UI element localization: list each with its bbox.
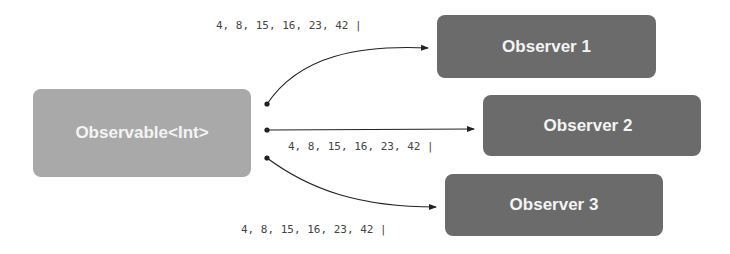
observer-2-box: Observer 2 xyxy=(483,95,701,156)
arrow-to-observer-3 xyxy=(264,155,436,207)
observer-2-label: Observer 2 xyxy=(544,116,633,136)
observer-1-box: Observer 1 xyxy=(437,15,656,78)
stream-label-3: 4, 8, 15, 16, 23, 42 | xyxy=(241,223,387,236)
diagram-canvas: Observable<Int> Observer 1 Observer 2 Ob… xyxy=(0,0,730,254)
observable-box: Observable<Int> xyxy=(33,89,251,177)
observer-3-label: Observer 3 xyxy=(510,195,599,215)
stream-label-2: 4, 8, 15, 16, 23, 42 | xyxy=(288,140,434,153)
arrow-to-observer-2 xyxy=(264,127,474,132)
stream-label-1: 4, 8, 15, 16, 23, 42 | xyxy=(216,19,362,32)
arrow-to-observer-1 xyxy=(264,48,428,107)
observer-1-label: Observer 1 xyxy=(502,37,591,57)
observable-label: Observable<Int> xyxy=(75,123,208,143)
observer-3-box: Observer 3 xyxy=(445,174,663,236)
